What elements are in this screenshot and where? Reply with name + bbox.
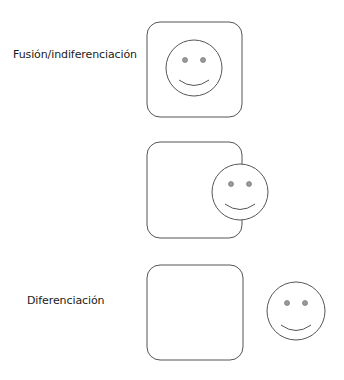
row-intermediate (147, 142, 268, 238)
row-fusion (147, 22, 242, 117)
self-box (147, 265, 243, 360)
smiley-face-icon (166, 40, 222, 96)
smiley-face-icon (212, 164, 268, 220)
smiley-face-icon (267, 282, 325, 340)
differentiation-diagram (0, 0, 344, 380)
row-diferenciacion (147, 265, 325, 360)
